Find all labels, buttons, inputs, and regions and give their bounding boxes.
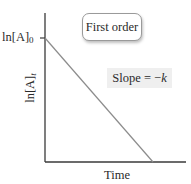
- data-line-first-order: [45, 38, 153, 162]
- slope-annotation: Slope = −k: [107, 68, 172, 88]
- chart-title: First order: [86, 20, 138, 35]
- y-axis-label: ln[A]t: [23, 73, 38, 103]
- chart-title-box: First order: [82, 13, 142, 41]
- y-tick-label-ln-a0: ln[A]0: [2, 30, 34, 47]
- x-axis-label: Time: [104, 168, 130, 183]
